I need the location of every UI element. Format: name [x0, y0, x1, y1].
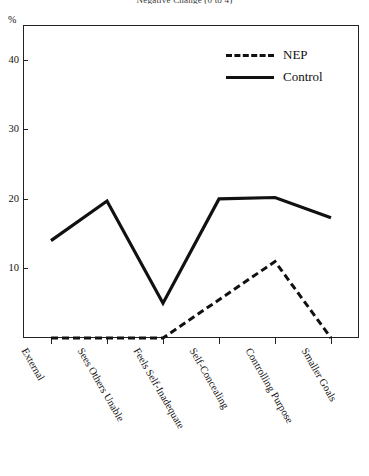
y-tick-mark	[23, 199, 28, 200]
x-axis-label: External	[19, 346, 46, 382]
y-tick-label: 10	[9, 263, 20, 273]
chart-container: Negative Change (0 to 4) % 10203040 Exte…	[0, 0, 369, 476]
x-axis-label: Self-Concealing	[187, 346, 231, 411]
y-tick-label: 40	[9, 55, 20, 65]
x-tick-mark	[163, 338, 164, 344]
x-axis-label: Feels Self-Inadequate	[131, 346, 186, 431]
legend-label-nep: NEP	[283, 47, 308, 63]
legend-item-nep: NEP	[226, 44, 323, 66]
y-tick-mark	[23, 268, 28, 269]
x-tick-mark	[107, 338, 108, 344]
x-tick-mark	[219, 338, 220, 344]
x-axis-label: Controlling Purpose	[243, 346, 295, 425]
x-tick-mark	[275, 338, 276, 344]
x-axis-label: Smaller Goals	[299, 346, 338, 403]
y-tick-mark	[23, 129, 28, 130]
y-tick-label: 20	[9, 194, 20, 204]
legend-item-control: Control	[226, 66, 323, 88]
y-tick-mark	[23, 60, 28, 61]
chart-legend: NEP Control	[226, 44, 323, 88]
chart-title: Negative Change (0 to 4)	[0, 0, 369, 4]
y-axis-unit-label: %	[8, 15, 16, 25]
y-tick-label: 30	[9, 124, 20, 134]
legend-swatch-nep	[226, 54, 274, 57]
x-tick-mark	[51, 338, 52, 344]
legend-swatch-control	[226, 76, 274, 79]
x-tick-mark	[331, 338, 332, 344]
legend-label-control: Control	[283, 69, 323, 85]
x-axis-label: Sees Others Unable	[75, 346, 126, 423]
